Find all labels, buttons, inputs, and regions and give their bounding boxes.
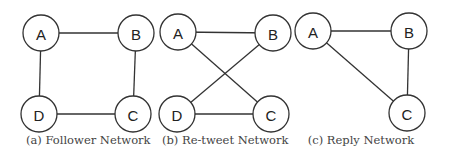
edge-reply-a-c (313, 31, 407, 113)
node-label: D (34, 107, 45, 124)
node-follower-a: A (23, 15, 59, 51)
node-reply-c: C (389, 95, 425, 131)
node-retweet-c: C (253, 96, 289, 132)
node-reply-b: B (391, 13, 427, 49)
node-label: C (128, 107, 139, 124)
node-label: D (172, 107, 183, 124)
node-label: A (36, 26, 46, 43)
node-follower-d: D (21, 96, 57, 132)
network-figure: ABCDABCDABC (a) Follower Network (b) Re-… (0, 0, 449, 157)
node-retweet-a: A (160, 14, 196, 50)
node-label: A (173, 25, 183, 42)
node-reply-a: A (295, 13, 331, 49)
node-label: A (308, 24, 318, 41)
caption-follower-network: (a) Follower Network (26, 133, 148, 147)
node-label: B (131, 26, 141, 43)
node-follower-c: C (115, 96, 151, 132)
node-label: C (266, 107, 277, 124)
node-follower-b: B (118, 15, 154, 51)
caption-retweet-network: (b) Re-tweet Network (162, 133, 288, 147)
edges-layer (39, 31, 409, 114)
node-retweet-d: D (159, 96, 195, 132)
node-label: B (404, 24, 414, 41)
caption-reply-network: (c) Reply Network (306, 133, 416, 147)
node-label: B (268, 26, 278, 43)
node-label: C (402, 106, 413, 123)
node-retweet-b: B (255, 15, 291, 51)
